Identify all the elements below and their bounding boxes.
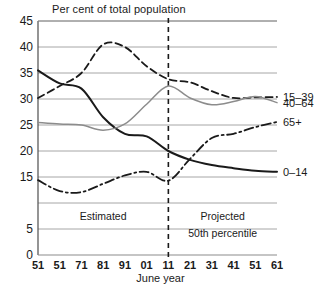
annotation: 50th percentile [188,227,257,239]
y-axis-tick-labels: 0515202530354045 [20,14,34,262]
x-tick-label: 51 [249,259,261,271]
x-tick-label: 01 [141,259,153,271]
x-tick-label: 31 [206,259,218,271]
y-tick-label: 15 [20,170,34,184]
y-tick-label: 5 [26,222,33,236]
y-tick-label: 25 [20,118,34,132]
y-tick-label: 30 [20,92,34,106]
y-tick-label: 35 [20,66,34,80]
y-tick-label: 45 [20,14,34,28]
series-line-4064 [38,86,277,130]
y-tick-label: 20 [20,144,34,158]
annotation: Projected [201,210,246,222]
x-tick-label: 71 [75,259,87,271]
x-tick-label: 21 [184,259,196,271]
series-label-014: 0–14 [283,166,307,178]
series-line-1539 [38,42,277,98]
x-tick-label: 51 [32,259,44,271]
x-tick-label: 11 [163,259,175,271]
x-axis-tick-labels: 515171819101112131415161 [32,259,283,271]
chart-container: Per cent of total population 05152025303… [0,0,321,298]
line-chart-plot: 0515202530354045 51517181910111213141516… [0,0,321,298]
x-tick-label: 51 [54,259,66,271]
x-tick-label: 81 [97,259,109,271]
series-labels: 0–1415–3940–6465+ [283,91,314,178]
series-label-65+: 65+ [283,116,302,128]
x-tick-label: 41 [227,259,239,271]
series-line-65+ [38,122,277,193]
x-tick-label: 91 [119,259,131,271]
x-axis-title: June year [0,272,321,284]
x-tick-label: 61 [271,259,283,271]
annotation: Estimated [80,210,127,222]
y-tick-label: 40 [20,40,34,54]
series-label-4064: 40–64 [283,97,314,109]
data-series [38,42,277,192]
series-line-014 [38,70,277,171]
